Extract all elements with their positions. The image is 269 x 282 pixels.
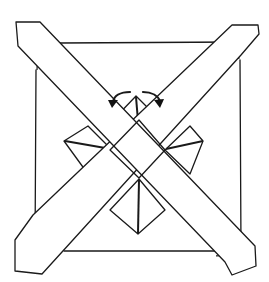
- diagram-canvas: [0, 0, 269, 282]
- origami-diagram: [0, 0, 269, 282]
